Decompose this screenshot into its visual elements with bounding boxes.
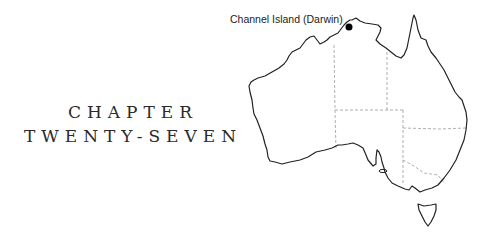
chapter-number: TWENTY-SEVEN [0, 124, 260, 148]
chapter-heading: CHAPTER TWENTY-SEVEN [0, 100, 260, 148]
chapter-label: CHAPTER [0, 100, 260, 124]
state-borders [334, 45, 466, 185]
tasmania-outline [418, 204, 436, 226]
darwin-marker [346, 24, 353, 31]
kangaroo-island [379, 169, 387, 172]
australia-map [240, 0, 498, 238]
mainland-outline [249, 15, 467, 192]
